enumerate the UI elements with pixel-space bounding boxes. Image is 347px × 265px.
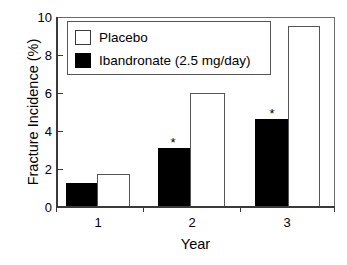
y-tick-mark-2 — [58, 169, 63, 170]
y-tick-label-4: 4 — [26, 125, 52, 138]
x-tick-label-year-1: 1 — [78, 216, 118, 229]
bar-ibandronate-year-2 — [158, 148, 190, 206]
y-axis-line — [56, 17, 58, 207]
x-tick-mark-2 — [240, 207, 241, 212]
y-tick-label-8: 8 — [26, 49, 52, 62]
y-tick-label-0: 0 — [26, 201, 52, 214]
bar-ibandronate-year-1 — [66, 183, 97, 206]
plot-frame-top — [56, 17, 335, 18]
chart-figure: Fracture Incidence (%) 10 8 6 4 2 0 * * … — [0, 0, 347, 265]
x-axis-line — [56, 206, 335, 208]
legend-label-ibandronate: Ibandronate (2.5 mg/day) — [99, 53, 251, 68]
significance-star-year-2: * — [167, 136, 179, 149]
bar-placebo-year-3 — [288, 26, 320, 207]
y-tick-mark-4 — [58, 131, 63, 132]
y-tick-label-6: 6 — [26, 87, 52, 100]
x-tick-label-year-3: 3 — [267, 216, 307, 229]
legend-swatch-placebo-icon — [75, 30, 91, 45]
y-axis-title: Fracture Incidence (%) — [25, 7, 41, 217]
bar-ibandronate-year-3 — [255, 119, 288, 206]
y-tick-label-10: 10 — [26, 11, 52, 24]
x-axis-title: Year — [56, 236, 335, 252]
y-tick-mark-6 — [58, 93, 63, 94]
legend-swatch-ibandronate-icon — [75, 53, 91, 68]
legend-label-placebo: Placebo — [99, 30, 148, 45]
legend-entry-ibandronate: Ibandronate (2.5 mg/day) — [75, 51, 251, 69]
x-tick-label-year-2: 2 — [172, 216, 212, 229]
y-tick-label-2: 2 — [26, 163, 52, 176]
chart-legend: Placebo Ibandronate (2.5 mg/day) — [67, 21, 271, 75]
legend-entry-placebo: Placebo — [75, 28, 148, 46]
significance-star-year-3: * — [266, 107, 278, 120]
plot-frame-right — [334, 17, 335, 207]
x-tick-mark-start — [56, 207, 57, 212]
x-tick-mark-1 — [143, 207, 144, 212]
x-tick-mark-end — [334, 207, 335, 212]
y-tick-mark-8 — [58, 55, 63, 56]
bar-placebo-year-2 — [190, 93, 225, 206]
bar-placebo-year-1 — [97, 174, 130, 206]
